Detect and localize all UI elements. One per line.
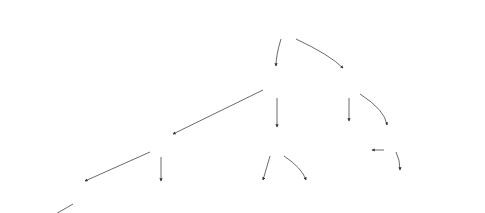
tree-svg-main	[0, 0, 485, 213]
decision-tree-diagram	[0, 0, 485, 213]
edges-lower	[42, 204, 73, 213]
